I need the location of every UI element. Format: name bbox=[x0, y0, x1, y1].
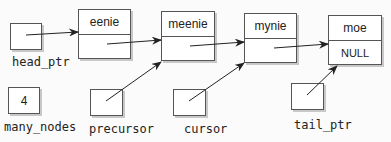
node-link bbox=[79, 35, 130, 59]
node-link-null: NULL bbox=[329, 41, 381, 65]
node-link bbox=[245, 39, 296, 63]
cursor-label: cursor bbox=[184, 122, 227, 136]
tail-ptr-label: tail_ptr bbox=[294, 118, 352, 132]
node-data: moe bbox=[329, 16, 381, 41]
node-mynie: mynie bbox=[244, 13, 297, 63]
precursor-label: precursor bbox=[89, 122, 154, 136]
head-ptr-box bbox=[10, 23, 42, 50]
cursor-box bbox=[173, 89, 206, 116]
node-moe: moe NULL bbox=[328, 15, 382, 65]
node-data: meenie bbox=[162, 12, 214, 37]
node-data: eenie bbox=[79, 10, 130, 35]
many-nodes-value: 4 bbox=[9, 88, 39, 113]
node-data: mynie bbox=[245, 14, 296, 39]
head-ptr-label: head_ptr bbox=[12, 55, 70, 69]
tail-ptr-box bbox=[291, 83, 324, 110]
linked-list-diagram: head_ptr eenie meenie mynie moe NULL 4 m… bbox=[0, 0, 391, 142]
node-link bbox=[162, 37, 214, 61]
many-nodes-box: 4 bbox=[8, 87, 40, 114]
node-eenie: eenie bbox=[78, 9, 131, 59]
many-nodes-label: many_nodes bbox=[4, 120, 76, 134]
precursor-box bbox=[90, 89, 123, 116]
node-meenie: meenie bbox=[161, 11, 215, 61]
